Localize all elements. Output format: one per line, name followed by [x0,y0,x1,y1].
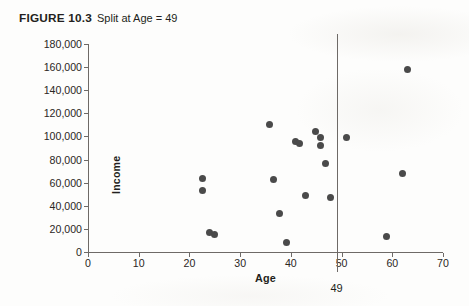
y-tick-mark [84,113,88,114]
data-point [283,239,290,246]
data-point [211,231,218,238]
y-tick-label: 160,000 [44,61,82,73]
y-tick-mark [84,206,88,207]
y-tick-label: 20,000 [50,223,82,235]
y-tick-mark [84,44,88,45]
y-tick-mark [84,136,88,137]
x-tick-label: 20 [184,257,196,269]
y-tick-label: 80,000 [50,154,82,166]
data-point [270,176,277,183]
x-tick-label: 0 [85,257,91,269]
x-tick-label: 40 [285,257,297,269]
y-tick-label: 180,000 [44,38,82,50]
y-tick-mark [84,90,88,91]
y-tick-label: 40,000 [50,200,82,212]
data-point [199,175,206,182]
y-tick-label: 140,000 [44,84,82,96]
data-point [266,121,273,128]
x-tick-label: 10 [133,257,145,269]
data-point [327,194,334,201]
figure-caption: FIGURE 10.3Split at Age = 49 [19,11,177,25]
split-line-label: 49 [330,282,342,294]
data-point [404,66,411,73]
y-tick-label: 60,000 [50,177,82,189]
y-axis-title: Income [110,156,122,194]
data-point [399,170,406,177]
data-point [383,233,390,240]
y-tick-mark [84,160,88,161]
y-tick-mark [84,183,88,184]
figure-container: FIGURE 10.3Split at Age = 49 020,00040,0… [0,0,469,306]
data-point [302,192,309,199]
y-tick-label: 0 [76,246,82,258]
scatter-plot: 020,00040,00060,00080,000100,000120,0001… [88,44,443,252]
split-line [337,34,338,272]
data-point [296,140,303,147]
x-tick-label: 60 [386,257,398,269]
figure-caption-text: Split at Age = 49 [97,12,177,24]
y-tick-mark [84,67,88,68]
y-tick-label: 100,000 [44,130,82,142]
x-axis-title: Age [88,272,443,284]
y-tick-mark [84,229,88,230]
x-axis-line [88,252,443,253]
data-point [317,142,324,149]
y-axis-line [88,44,89,252]
x-tick-label: 30 [234,257,246,269]
y-tick-label: 120,000 [44,107,82,119]
x-tick-label: 70 [437,257,449,269]
figure-number: FIGURE 10.3 [19,11,92,25]
data-point [317,134,324,141]
data-point [322,160,329,167]
data-point [199,187,206,194]
data-point [343,134,350,141]
data-point [276,210,283,217]
